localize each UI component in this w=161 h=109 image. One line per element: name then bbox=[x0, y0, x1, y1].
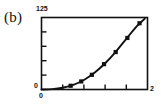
plot-frame-rect bbox=[42, 18, 148, 90]
figure-panel: (b) 125 0 0 2 bbox=[0, 0, 161, 109]
axis-frame bbox=[42, 18, 148, 90]
data-point-marker bbox=[90, 73, 94, 77]
data-point-marker bbox=[114, 50, 118, 54]
data-point-markers bbox=[69, 21, 142, 88]
data-point-marker bbox=[125, 36, 129, 40]
data-point-marker bbox=[69, 84, 73, 88]
data-point-marker bbox=[137, 21, 141, 25]
plot-area bbox=[0, 0, 161, 109]
data-curve-line bbox=[42, 19, 145, 90]
data-point-marker bbox=[79, 79, 83, 83]
data-point-marker bbox=[102, 62, 106, 66]
